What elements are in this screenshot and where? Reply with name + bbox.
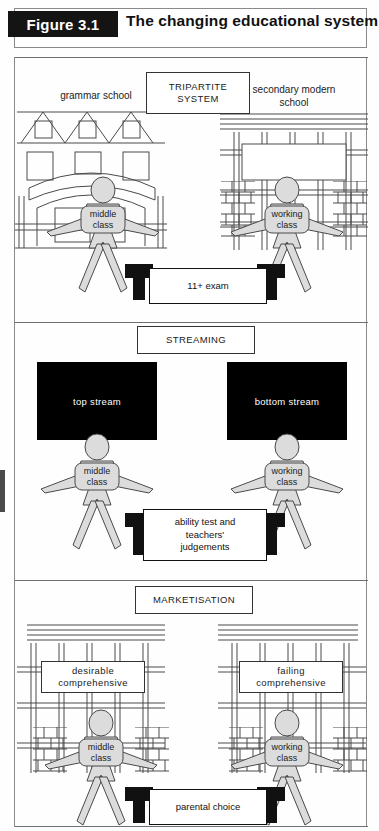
panel-marketisation: MARKETISATION	[15, 581, 368, 826]
caption-streaming-label: STREAMING	[166, 334, 226, 346]
panel-divider-4	[15, 826, 368, 827]
label-failing-line2: comprehensive	[256, 677, 326, 689]
arrow-box-ability-test: ability test and teachers' judgements	[143, 509, 267, 561]
page-title: The changing educational system	[126, 12, 378, 30]
caption-tripartite-system: TRIPARTITE SYSTEM	[146, 72, 250, 114]
figure-number-badge: Figure 3.1	[8, 11, 118, 37]
figure-body-frame: grammar school	[14, 57, 367, 827]
label-desirable-comprehensive: desirable comprehensive	[41, 661, 145, 693]
label-failing-line1: failing	[277, 665, 305, 677]
stream-block-bottom: bottom stream	[227, 362, 347, 440]
stream-block-top: top stream	[37, 362, 157, 440]
figure-number-label: Figure 3.1	[27, 16, 100, 33]
stream-block-bottom-label: bottom stream	[255, 396, 320, 407]
arrow-box-11plus-exam: 11+ exam	[149, 268, 267, 304]
label-desirable-line2: comprehensive	[58, 677, 128, 689]
arrow-box-label-line1: ability test and	[175, 516, 236, 528]
arrow-box-label-line2: teachers'	[186, 529, 224, 541]
caption-marketisation-label: MARKETISATION	[153, 594, 235, 606]
caption-tripartite-system-label: TRIPARTITE SYSTEM	[147, 81, 249, 105]
arrow-box-parental-choice: parental choice	[149, 789, 267, 825]
stream-block-top-label: top stream	[73, 396, 121, 407]
grammar-school-label: grammar school	[33, 90, 159, 103]
scan-edge-artifact	[0, 470, 5, 512]
caption-streaming: STREAMING	[137, 326, 255, 354]
caption-marketisation: MARKETISATION	[135, 586, 253, 614]
label-failing-comprehensive: failing comprehensive	[239, 661, 343, 693]
label-desirable-line1: desirable	[72, 665, 114, 677]
figure-3-1: Figure 3.1 The changing educational syst…	[0, 0, 379, 831]
arrow-box-label: 11+ exam	[187, 280, 228, 292]
grammar-school-label-wrap: grammar school	[33, 90, 159, 103]
panel-tripartite: grammar school	[15, 58, 368, 322]
arrow-box-label: parental choice	[176, 801, 240, 813]
panel-streaming: STREAMING top stream bottom stream	[15, 323, 368, 580]
arrow-box-label-line3: judgements	[180, 541, 229, 553]
